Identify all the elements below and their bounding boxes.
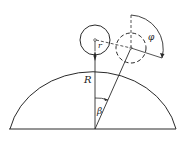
label-beta: β xyxy=(96,106,102,116)
label-phi: φ xyxy=(148,32,155,42)
small-circle-center xyxy=(94,39,97,42)
large-semicircle xyxy=(10,72,176,129)
label-R: R xyxy=(83,74,92,85)
contact-arrow-down-icon xyxy=(94,56,97,61)
rotated-radius-line xyxy=(131,48,162,58)
rolling-circle-diagram: R r β φ xyxy=(0,0,185,143)
label-r: r xyxy=(98,41,103,50)
radius-line-displaced xyxy=(95,48,131,129)
